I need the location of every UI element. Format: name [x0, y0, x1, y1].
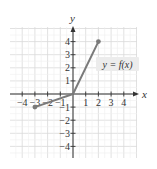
x-axis-label: x [141, 88, 147, 100]
y-tick-label: 4 [65, 36, 70, 47]
function-label-text: y = f(x) [101, 59, 133, 71]
function-graph: xy −4−3−2−11234−4−3−2−11234 y = f(x) [0, 0, 157, 169]
y-tick-label: 1 [65, 75, 70, 86]
y-axis-label: y [69, 12, 75, 24]
endpoint-dot [33, 105, 38, 110]
x-tick-label: 2 [96, 97, 101, 108]
x-tick-label: −4 [17, 97, 28, 108]
y-axis-arrow-icon [71, 26, 76, 32]
y-tick-label: −2 [59, 115, 70, 126]
x-tick-label: 3 [109, 97, 114, 108]
y-tick-label: −4 [59, 141, 70, 152]
axes: xy [10, 12, 147, 158]
function-label: y = f(x) [96, 57, 139, 71]
y-tick-label: 2 [65, 62, 70, 73]
x-tick-label: 1 [83, 97, 88, 108]
x-axis-arrow-icon [133, 92, 139, 97]
y-tick-label: −3 [59, 128, 70, 139]
y-tick-label: 3 [65, 49, 70, 60]
y-tick-label: −1 [59, 102, 70, 113]
x-tick-label: 4 [121, 97, 126, 108]
endpoint-dot [96, 39, 101, 44]
